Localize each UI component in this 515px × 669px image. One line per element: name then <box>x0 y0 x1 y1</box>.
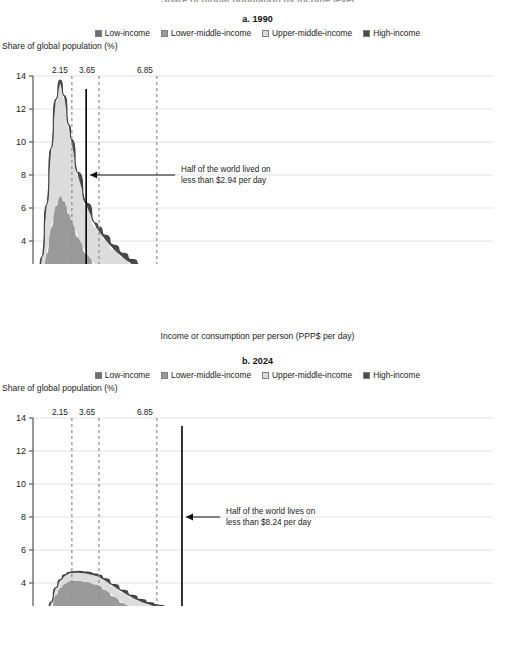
panel-1990: a. 1990 Low-income Lower-middle-income U… <box>0 14 515 51</box>
clipped-figure-header: Share of global population by income lev… <box>0 0 515 2</box>
chart-2024: 2.153.656.85Half of the world lives onle… <box>0 356 515 606</box>
svg-text:4: 4 <box>21 236 26 246</box>
chart-1990: 2.153.656.85Half of the world lived onle… <box>0 14 515 264</box>
svg-text:6: 6 <box>21 203 26 213</box>
svg-text:12: 12 <box>16 104 26 114</box>
x-axis-title-1990: Income or consumption per person (PPP$ p… <box>0 331 515 341</box>
svg-text:14: 14 <box>16 413 26 423</box>
svg-text:6.85: 6.85 <box>137 66 153 75</box>
svg-text:4: 4 <box>21 578 26 588</box>
svg-text:less than $8.24 per day: less than $8.24 per day <box>226 518 312 527</box>
svg-text:8: 8 <box>21 170 26 180</box>
svg-text:2.15: 2.15 <box>52 66 68 75</box>
svg-text:3.65: 3.65 <box>79 408 95 417</box>
svg-text:Half of the world lived on: Half of the world lived on <box>181 165 271 174</box>
svg-text:2.15: 2.15 <box>52 408 68 417</box>
svg-text:less than $2.94 per day: less than $2.94 per day <box>181 176 267 185</box>
svg-text:Half of the world lives on: Half of the world lives on <box>226 507 316 516</box>
svg-text:6: 6 <box>21 545 26 555</box>
svg-text:10: 10 <box>16 479 26 489</box>
panel-2024: b. 2024 Low-income Lower-middle-income U… <box>0 356 515 393</box>
svg-text:10: 10 <box>16 137 26 147</box>
svg-text:3.65: 3.65 <box>79 66 95 75</box>
svg-text:8: 8 <box>21 512 26 522</box>
svg-text:6.85: 6.85 <box>137 408 153 417</box>
svg-text:14: 14 <box>16 71 26 81</box>
svg-text:12: 12 <box>16 446 26 456</box>
